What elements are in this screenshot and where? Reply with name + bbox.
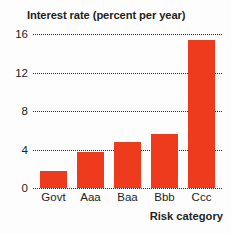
y-tick-label: 12 [0,67,28,79]
gridline-16 [33,34,222,35]
bar-aaa [77,152,104,188]
bar-ccc [188,40,215,188]
x-axis-label: Risk category [150,210,223,222]
bar-baa [114,142,141,188]
plot-area: 0481216 GovtAaaBaaBbbCcc [0,0,231,234]
y-tick-label: 8 [0,105,28,117]
y-tick-label: 16 [0,28,28,40]
y-tick-label: 0 [0,182,28,194]
bar-govt [40,171,67,188]
bar-chart-figure: Interest rate (percent per year) 0481216… [0,0,231,234]
x-tick-label-ccc: Ccc [180,191,223,203]
bar-bbb [151,134,178,188]
y-tick-label: 4 [0,144,28,156]
gridline-0 [33,188,222,189]
